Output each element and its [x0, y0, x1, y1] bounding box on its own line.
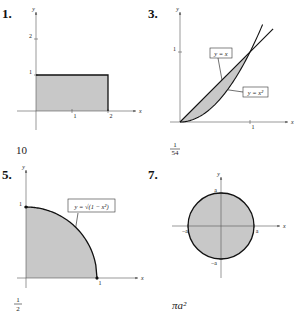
panel-1: 1. xy1212 10: [2, 6, 142, 156]
x-axis-label: x: [290, 119, 294, 125]
figure-grid: 1. xy1212 10 3. xy11y = xy = x² 1 54 5. …: [0, 0, 295, 312]
y-axis-label: y: [175, 6, 179, 12]
label-y-equals-x-squared: y = x²: [228, 87, 268, 97]
plot-3: xy11y = xy = x²: [170, 6, 294, 130]
plot-1: xy1212: [17, 6, 142, 130]
label-curve: y = √(1 − x²): [68, 199, 115, 228]
label-text: y = √(1 − x²): [73, 203, 108, 211]
answer-1: 10: [16, 144, 28, 156]
answer-5-numerator: 1: [16, 296, 20, 304]
answer-7: πa²: [172, 299, 187, 311]
y-tick-label: −a: [211, 260, 217, 266]
label-text: y = x: [213, 50, 228, 57]
problem-number-5: 5.: [2, 167, 12, 182]
label-pointer: [218, 58, 222, 80]
x-tick-label: 1: [74, 113, 77, 119]
x-axis-label: x: [282, 223, 286, 229]
panel-3: 3. xy11y = xy = x² 1 54: [148, 6, 294, 157]
plot-7: xy−aa−aa: [172, 171, 286, 278]
y-tick-label: 2: [29, 33, 32, 39]
y-tick-label: 1: [29, 69, 32, 75]
y-tick-label: 1: [19, 201, 22, 207]
problem-number-7: 7.: [148, 167, 158, 182]
label-pointer: [76, 213, 78, 228]
problem-number-1: 1.: [2, 6, 12, 21]
x-tick-label: a: [256, 228, 259, 234]
answer-3-numerator: 1: [173, 141, 177, 149]
problem-number-3: 3.: [148, 6, 158, 21]
shaded-region: [36, 75, 108, 111]
x-tick-label: 2: [110, 113, 113, 119]
x-tick-label: −a: [182, 228, 188, 234]
x-axis-label: x: [138, 108, 142, 114]
curve-y-equals-x: [180, 29, 273, 122]
y-tick-label: a: [214, 187, 217, 193]
endpoint-dot: [95, 276, 98, 279]
x-tick-label: 1: [252, 124, 255, 130]
label-pointer: [228, 90, 243, 92]
panel-5: 5. xy11y = √(1 − x²) 1 2: [2, 164, 144, 312]
y-axis-label: y: [216, 171, 220, 177]
answer-3-denominator: 54: [172, 149, 180, 157]
label-text: y = x²: [247, 89, 264, 96]
endpoint-dot: [24, 205, 27, 208]
curve-y-equals-x-squared: [180, 25, 263, 122]
y-tick-label: 1: [173, 46, 176, 52]
answer-5-denominator: 2: [16, 305, 20, 312]
x-axis-label: x: [140, 275, 144, 281]
answer-3: 1 54: [170, 141, 180, 157]
y-axis-label: y: [31, 6, 35, 12]
shaded-region: [26, 207, 97, 278]
y-axis-label: y: [21, 164, 25, 170]
x-tick-label: 1: [99, 280, 102, 286]
plot-5: xy11y = √(1 − x²): [17, 164, 144, 288]
panel-7: 7. xy−aa−aa πa²: [148, 167, 286, 311]
answer-5: 1 2: [14, 296, 22, 312]
